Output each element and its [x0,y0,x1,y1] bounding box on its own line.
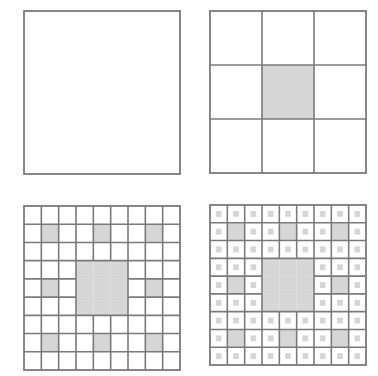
removed-center-square [93,279,110,297]
removed-tiny-square [250,300,256,306]
removed-tiny-square [250,246,256,252]
removed-tiny-square [354,211,360,217]
sierpinski-carpet-diagram [0,0,378,376]
removed-center-square [279,276,296,294]
removed-tiny-square [216,229,222,235]
removed-center-square [262,258,279,276]
removed-sub-square [41,224,58,242]
removed-tiny-square [354,282,360,288]
removed-tiny-square [302,211,308,217]
removed-center-square [76,297,93,315]
removed-tiny-square [337,211,343,217]
removed-sub-square [41,279,58,297]
removed-sub-square [279,329,296,347]
removed-center-square [76,279,93,297]
removed-tiny-square [354,353,360,359]
removed-tiny-square [320,353,326,359]
removed-tiny-square [337,246,343,252]
removed-center-square [297,258,314,276]
removed-tiny-square [216,300,222,306]
removed-tiny-square [285,353,291,359]
removed-center-square [93,261,110,279]
panel-iteration-0 [24,11,180,174]
removed-tiny-square [337,300,343,306]
removed-tiny-square [233,264,239,270]
removed-sub-square [279,223,296,241]
removed-tiny-square [320,335,326,341]
removed-tiny-square [216,264,222,270]
removed-tiny-square [337,318,343,324]
removed-tiny-square [250,335,256,341]
removed-tiny-square [250,318,256,324]
removed-tiny-square [250,264,256,270]
removed-tiny-square [250,211,256,217]
removed-tiny-square [354,229,360,235]
removed-tiny-square [216,353,222,359]
removed-tiny-square [250,282,256,288]
panel-iteration-3 [210,205,366,365]
removed-sub-square [93,334,110,352]
removed-tiny-square [233,353,239,359]
removed-tiny-square [354,335,360,341]
removed-tiny-square [268,246,274,252]
removed-center-square [279,258,296,276]
removed-center-square [111,279,128,297]
panel-iteration-1 [210,11,366,173]
removed-sub-square [145,224,162,242]
removed-tiny-square [302,318,308,324]
removed-sub-square [227,223,244,241]
removed-center-square [262,276,279,294]
panel-border [24,11,180,174]
removed-center-square [279,294,296,312]
removed-sub-square [227,276,244,294]
removed-tiny-square [320,318,326,324]
removed-tiny-square [302,353,308,359]
removed-tiny-square [268,353,274,359]
removed-tiny-square [320,229,326,235]
removed-sub-square [331,276,348,294]
removed-center-square [93,297,110,315]
removed-tiny-square [285,211,291,217]
removed-center-square [297,276,314,294]
removed-tiny-square [320,246,326,252]
removed-tiny-square [233,211,239,217]
removed-tiny-square [320,264,326,270]
removed-sub-square [41,334,58,352]
removed-tiny-square [354,300,360,306]
removed-center-square [297,294,314,312]
removed-sub-square [331,329,348,347]
removed-sub-square [227,329,244,347]
removed-tiny-square [320,211,326,217]
removed-tiny-square [216,246,222,252]
removed-tiny-square [302,335,308,341]
removed-sub-square [145,279,162,297]
removed-center-square [262,294,279,312]
removed-tiny-square [337,264,343,270]
removed-tiny-square [354,264,360,270]
removed-center-square [111,261,128,279]
removed-center-square [76,261,93,279]
removed-tiny-square [302,229,308,235]
removed-tiny-square [216,318,222,324]
removed-tiny-square [233,246,239,252]
panel-iteration-2 [24,206,180,370]
removed-center-square [262,65,314,119]
removed-tiny-square [216,335,222,341]
removed-sub-square [93,224,110,242]
removed-tiny-square [337,353,343,359]
removed-tiny-square [250,229,256,235]
removed-tiny-square [320,300,326,306]
removed-sub-square [331,223,348,241]
removed-tiny-square [216,282,222,288]
removed-tiny-square [233,318,239,324]
removed-tiny-square [354,246,360,252]
removed-tiny-square [268,211,274,217]
removed-tiny-square [233,300,239,306]
removed-sub-square [145,334,162,352]
removed-tiny-square [268,229,274,235]
removed-tiny-square [285,246,291,252]
removed-tiny-square [268,318,274,324]
removed-center-square [111,297,128,315]
removed-tiny-square [302,246,308,252]
removed-tiny-square [268,335,274,341]
